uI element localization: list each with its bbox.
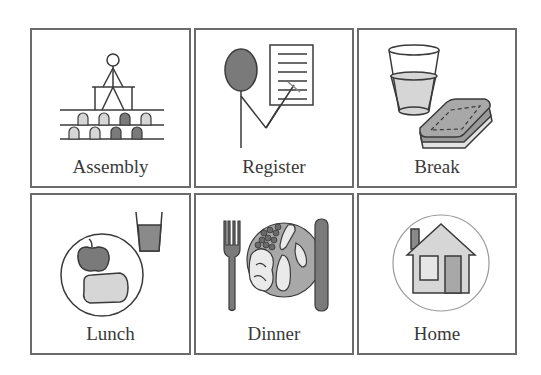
tile-home[interactable]: Home xyxy=(357,193,517,355)
tile-label: Lunch xyxy=(32,323,189,345)
tile-label: Assembly xyxy=(32,156,189,178)
tile-dinner[interactable]: Dinner xyxy=(194,193,354,355)
tile-lunch[interactable]: Lunch xyxy=(30,193,191,355)
tile-label: Dinner xyxy=(196,323,352,345)
tile-label: Break xyxy=(359,156,515,178)
tile-label: Register xyxy=(196,156,352,178)
tile-label: Home xyxy=(359,323,515,345)
tile-break[interactable]: Break xyxy=(357,28,517,188)
tile-assembly[interactable]: Assembly xyxy=(30,28,191,188)
tile-register[interactable]: Register xyxy=(194,28,354,188)
